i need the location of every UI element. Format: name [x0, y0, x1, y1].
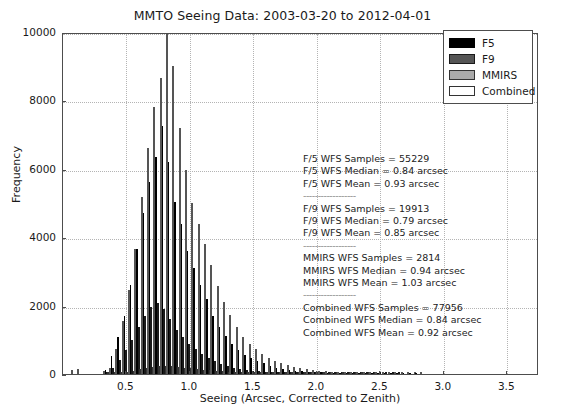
legend-item-label: F5 — [482, 37, 495, 49]
bar — [150, 307, 152, 374]
stats-line: F/5 WFS Median = 0.84 arcsec — [303, 165, 493, 177]
legend-item-label: MMIRS — [482, 69, 517, 81]
y-tick-mark — [62, 375, 66, 376]
figure-canvas: MMTO Seeing Data: 2003-03-20 to 2012-04-… — [0, 0, 565, 416]
x-tick-label: 0.5 — [102, 380, 148, 392]
bar — [409, 373, 410, 374]
bar — [71, 370, 73, 374]
stats-line: F/5 WFS Samples = 55229 — [303, 153, 493, 165]
bar — [163, 309, 165, 374]
bar — [403, 373, 404, 374]
stats-line: MMIRS WFS Median = 0.94 arcsec — [303, 265, 493, 277]
bar — [157, 303, 159, 374]
stats-line: Combined WFS Samples = 77956 — [303, 302, 493, 314]
x-tick-mark — [379, 371, 380, 375]
stats-separator: ------------------ — [303, 190, 493, 202]
y-tick-label: 0 — [10, 368, 56, 380]
stats-line: F/9 WFS Mean = 0.85 arcsec — [303, 227, 493, 239]
stats-separator: ------------------ — [303, 240, 493, 252]
stats-line: Combined WFS Mean = 0.92 arcsec — [303, 327, 493, 339]
legend-swatch-icon — [449, 86, 475, 96]
x-tick-mark — [125, 371, 126, 375]
y-tick-mark — [62, 307, 66, 308]
legend: F5F9MMIRSCombined — [443, 30, 533, 104]
legend-swatch-icon — [449, 38, 475, 48]
legend-item-mmirs[interactable]: MMIRS — [449, 67, 527, 83]
gridline-vertical — [253, 34, 254, 374]
y-tick-mark — [62, 33, 66, 34]
stats-line: MMIRS WFS Mean = 1.03 arcsec — [303, 277, 493, 289]
x-tick-label: 2.0 — [293, 380, 339, 392]
x-tick-label: 1.0 — [166, 380, 212, 392]
y-tick-label: 10000 — [10, 26, 56, 38]
legend-swatch-icon — [449, 70, 475, 80]
statistics-annotation: F/5 WFS Samples = 55229F/5 WFS Median = … — [303, 153, 493, 339]
stats-line: Combined WFS Median = 0.84 arcsec — [303, 314, 493, 326]
y-axis-label: Frequency — [10, 115, 23, 235]
legend-swatch-icon — [449, 54, 475, 64]
stats-line: F/5 WFS Mean = 0.93 arcsec — [303, 178, 493, 190]
bar — [385, 372, 387, 374]
x-tick-label: 3.0 — [420, 380, 466, 392]
y-tick-mark — [62, 101, 66, 102]
x-tick-label: 2.5 — [356, 380, 402, 392]
stats-line: MMIRS WFS Samples = 2814 — [303, 252, 493, 264]
x-tick-mark — [316, 371, 317, 375]
x-tick-mark — [189, 371, 190, 375]
x-tick-label: 3.5 — [483, 380, 529, 392]
legend-item-label: Combined — [482, 85, 535, 97]
y-tick-label: 8000 — [10, 94, 56, 106]
y-tick-mark — [62, 238, 66, 239]
legend-item-label: F9 — [482, 53, 495, 65]
legend-item-f9[interactable]: F9 — [449, 51, 527, 67]
y-tick-mark — [62, 170, 66, 171]
x-axis-label: Seeing (Arcsec, Corrected to Zenith) — [62, 392, 538, 405]
x-tick-mark — [252, 371, 253, 375]
bar — [420, 372, 422, 374]
legend-item-f5[interactable]: F5 — [449, 35, 527, 51]
bar — [77, 369, 79, 374]
x-tick-mark — [506, 371, 507, 375]
legend-item-combined[interactable]: Combined — [449, 83, 527, 99]
bar — [415, 373, 416, 374]
y-tick-label: 2000 — [10, 300, 56, 312]
bar — [398, 372, 400, 374]
stats-separator: ------------------ — [303, 289, 493, 301]
bar — [144, 316, 146, 374]
bar — [138, 327, 140, 374]
chart-title: MMTO Seeing Data: 2003-03-20 to 2012-04-… — [0, 8, 565, 23]
bar — [392, 372, 394, 374]
x-tick-mark — [443, 371, 444, 375]
x-tick-label: 1.5 — [229, 380, 275, 392]
stats-line: F/9 WFS Samples = 19913 — [303, 203, 493, 215]
bar — [131, 340, 133, 374]
stats-line: F/9 WFS Median = 0.79 arcsec — [303, 215, 493, 227]
